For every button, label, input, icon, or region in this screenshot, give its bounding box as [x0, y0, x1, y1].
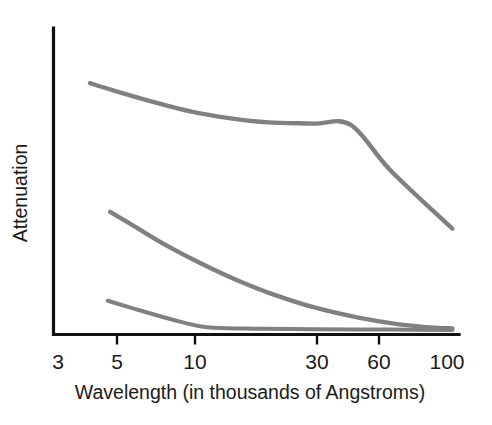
curve-upper-curve: [90, 83, 453, 229]
chart-figure: 35103060100 Wavelength (in thousands of …: [0, 0, 492, 425]
attenuation-wavelength-chart: 35103060100 Wavelength (in thousands of …: [0, 0, 492, 425]
x-axis-title: Wavelength (in thousands of Angstroms): [75, 381, 425, 403]
x-tick-label-3: 3: [52, 350, 64, 373]
x-tick-label-30: 30: [305, 350, 328, 373]
y-axis-title: Attenuation: [9, 144, 31, 243]
curve-middle-curve: [110, 212, 452, 328]
x-tick-label-5: 5: [111, 350, 123, 373]
x-axis-tick-labels: 35103060100: [52, 350, 464, 373]
x-tick-label-10: 10: [183, 350, 206, 373]
x-tick-label-60: 60: [367, 350, 390, 373]
x-tick-label-100: 100: [429, 350, 464, 373]
x-axis-ticks: [117, 336, 379, 345]
data-curves: [90, 83, 453, 330]
